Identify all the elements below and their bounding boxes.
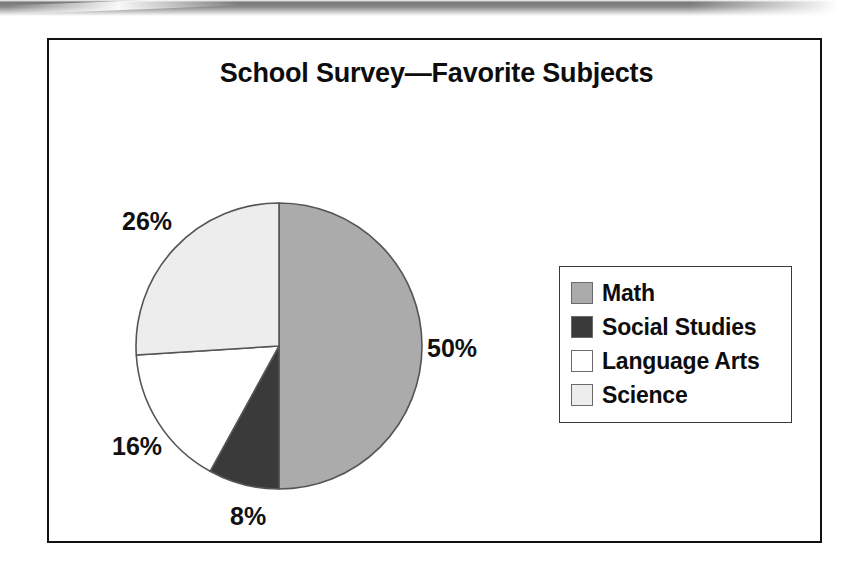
legend-swatch-science — [571, 384, 593, 406]
pie-value-label-language-arts: 16% — [112, 432, 162, 461]
legend-item-science[interactable]: Science — [571, 378, 781, 412]
legend-item-math[interactable]: Math — [571, 276, 781, 310]
legend-item-language-arts[interactable]: Language Arts — [571, 344, 781, 378]
legend-label-language-arts: Language Arts — [602, 348, 760, 375]
pie-value-label-science: 26% — [122, 207, 172, 236]
legend-label-math: Math — [602, 280, 655, 307]
pie-chart-svg — [135, 202, 423, 490]
scan-shadow-band — [0, 0, 859, 16]
legend-swatch-social-studies — [571, 316, 593, 338]
pie-value-label-math: 50% — [427, 334, 477, 363]
legend-item-social-studies[interactable]: Social Studies — [571, 310, 781, 344]
chart-frame: School Survey—Favorite Subjects 50% 8% 1… — [47, 38, 822, 543]
legend-label-science: Science — [602, 382, 688, 409]
pie-slice-math[interactable] — [279, 203, 422, 489]
scan-light-streak — [8, 0, 238, 14]
chart-title: School Survey—Favorite Subjects — [49, 58, 824, 89]
pie-chart — [135, 202, 423, 490]
pie-value-label-social-studies: 8% — [230, 502, 266, 531]
legend-label-social-studies: Social Studies — [602, 314, 756, 341]
legend-swatch-language-arts — [571, 350, 593, 372]
scan-band-taper — [690, 0, 859, 16]
chart-legend: Math Social Studies Language Arts Scienc… — [559, 266, 792, 423]
legend-swatch-math — [571, 282, 593, 304]
